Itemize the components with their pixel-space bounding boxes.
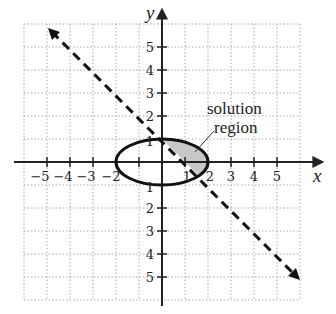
x-tick-label: 3: [227, 169, 235, 184]
y-tick-label: 1: [146, 180, 154, 195]
x-tick-label: −5: [30, 169, 49, 184]
y-tick-label: 1: [146, 134, 154, 149]
annotation-region: region: [214, 118, 258, 137]
y-tick-label: 2: [146, 109, 154, 124]
x-axis-label: x: [312, 165, 322, 186]
y-tick-label: 4: [146, 63, 154, 78]
y-tick-label: 2: [146, 201, 154, 216]
y-tick-label: 3: [146, 86, 154, 101]
y-tick-label: 5: [146, 270, 154, 285]
dashed-boundary-line: [52, 32, 296, 276]
x-tick-label: 2: [206, 169, 214, 184]
x-tick-label: −2: [101, 169, 120, 184]
y-tick-label: 4: [146, 247, 154, 262]
x-tick-label: 4: [250, 169, 258, 184]
y-tick-label: 5: [146, 40, 154, 55]
x-tick-label: 5: [273, 169, 281, 184]
y-tick-label: 3: [146, 224, 154, 239]
x-tick-label: −4: [53, 169, 72, 184]
x-tick-labels: −5 −4 −3 −2 1 2 3 4 5: [30, 169, 281, 184]
annotation-solution: solution: [207, 99, 262, 118]
coordinate-graph: −5 −4 −3 −2 1 2 3 4 5 5 4 3 2 1 1 2 3 4 …: [0, 0, 336, 314]
x-tick-label: −3: [76, 169, 95, 184]
annotation-leader-line: [195, 131, 214, 152]
y-axis-label: y: [144, 2, 155, 23]
x-tick-label: 1: [183, 169, 191, 184]
